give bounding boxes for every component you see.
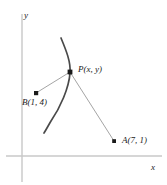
point-marker-A — [112, 139, 116, 143]
point-marker-B — [34, 91, 38, 95]
point-label-b: B(1, 4) — [22, 98, 47, 107]
y-axis-label: y — [24, 11, 28, 20]
coordinate-diagram: y x P(x, y) B(1, 4) A(7, 1) — [0, 0, 167, 185]
diagram-canvas — [0, 0, 167, 185]
point-marker-P — [68, 70, 73, 75]
segment-P-to-B — [36, 72, 70, 93]
point-label-a: A(7, 1) — [122, 136, 147, 145]
point-label-p: P(x, y) — [78, 65, 102, 74]
x-axis-label: x — [151, 163, 155, 172]
segment-P-to-A — [70, 72, 114, 141]
